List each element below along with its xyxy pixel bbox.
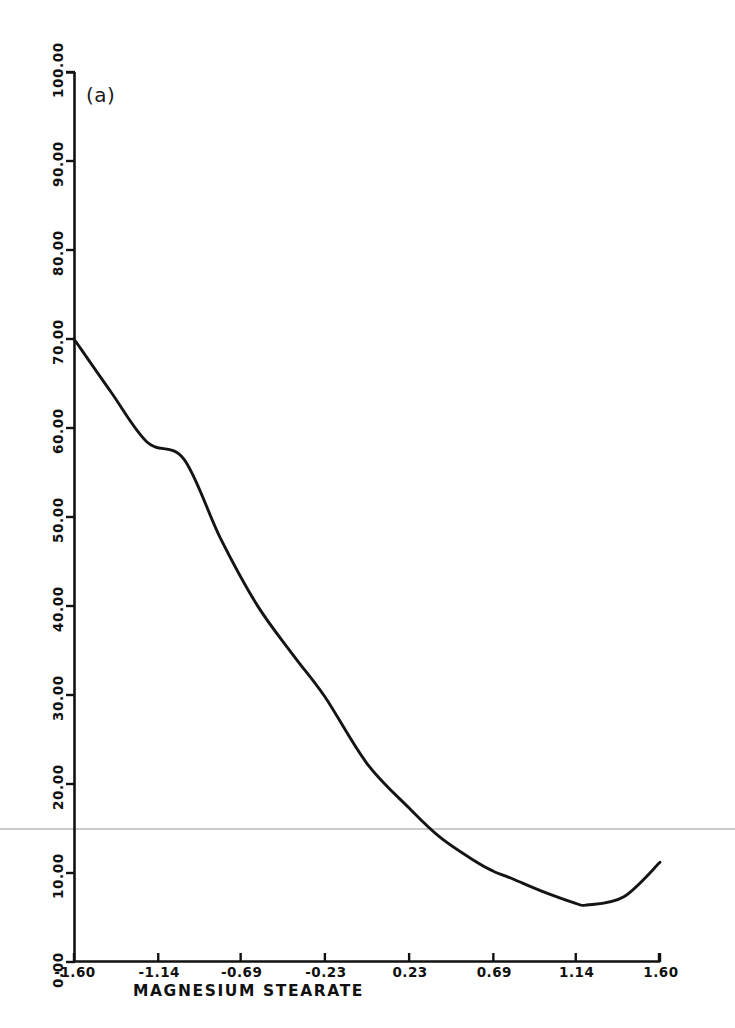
x-axis-tick-label: -1.14	[139, 964, 180, 980]
y-axis-tick-label: 80.00	[50, 230, 66, 276]
dissolution-curve	[74, 339, 660, 906]
x-axis-tick-label: 1.14	[559, 964, 594, 980]
chart-canvas	[0, 0, 735, 1028]
x-axis-tick-label: 0.23	[392, 964, 427, 980]
x-axis-title: MAGNESIUM STEARATE	[133, 982, 364, 1000]
x-axis-tick-label: -0.23	[305, 964, 346, 980]
y-axis-tick-label: 90.00	[50, 141, 66, 187]
y-axis-tick-label: 100.00	[50, 42, 66, 98]
x-axis-tick-label: -0.69	[221, 964, 262, 980]
y-axis-tick-label: 30.00	[50, 675, 66, 721]
x-axis-tick-label: 1.60	[643, 964, 678, 980]
y-axis-tick-label: 50.00	[50, 497, 66, 543]
y-axis-tick-label: 60.00	[50, 408, 66, 454]
chart-figure: (a) DISSOLUTION AT 30 MIN. MAGNESIUM STE…	[0, 0, 735, 1028]
panel-label-a: (a)	[86, 83, 115, 107]
y-axis-tick-label: 40.00	[50, 586, 66, 632]
x-axis-tick-label: -1.60	[54, 964, 95, 980]
y-axis-tick-label: 70.00	[50, 319, 66, 365]
x-axis-tick-label: 0.69	[477, 964, 512, 980]
y-axis-tick-label: 20.00	[50, 764, 66, 810]
y-axis-tick-label: 10.00	[50, 853, 66, 899]
